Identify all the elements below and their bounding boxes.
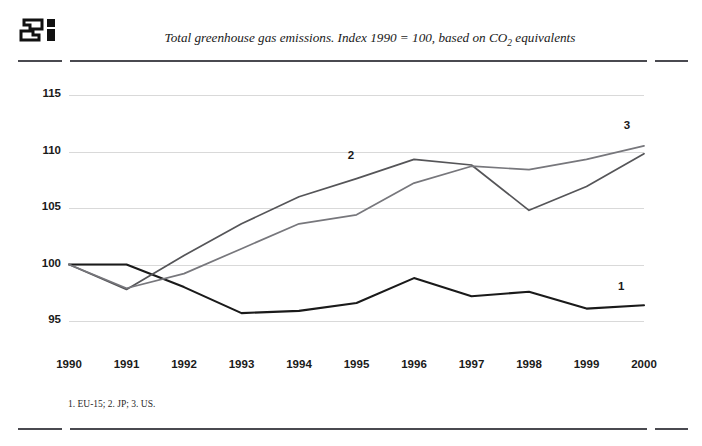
plot-area: 95100105110115 1990199119921993199419951… (0, 62, 702, 382)
footnote: 1. EU-15; 2. JP; 3. US. (68, 399, 155, 409)
footer-rule-middle (70, 428, 647, 430)
series-line-3 (69, 146, 644, 288)
chart-page: Total greenhouse gas emissions. Index 19… (0, 0, 702, 446)
footer-rule-right (655, 428, 688, 430)
footer-rule-left (18, 428, 62, 430)
page-title-tail: equivalents (512, 30, 575, 45)
series-lines (0, 62, 702, 382)
page-title-main: Total greenhouse gas emissions. Index 19… (165, 30, 508, 45)
series-line-2 (69, 154, 644, 290)
series-annotation-1: 1 (618, 280, 624, 292)
page-title: Total greenhouse gas emissions. Index 19… (70, 30, 670, 48)
series-annotation-3: 3 (624, 119, 630, 131)
series-annotation-2: 2 (348, 149, 354, 161)
oecd-style-logo-icon (18, 16, 60, 48)
chart-header: Total greenhouse gas emissions. Index 19… (0, 0, 702, 62)
